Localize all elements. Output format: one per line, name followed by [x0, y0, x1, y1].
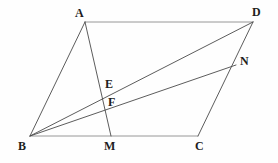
geometry-figure: A D B C M N E F [0, 0, 278, 163]
vertex-label-M: M [104, 140, 116, 152]
vertex-label-C: C [195, 140, 204, 152]
segment-BD [30, 22, 253, 136]
segment-group [30, 22, 253, 136]
geometry-canvas [0, 0, 278, 163]
vertex-label-A: A [75, 7, 84, 19]
vertex-label-D: D [252, 6, 261, 18]
segment-AB [30, 22, 85, 136]
segment-DC [198, 22, 253, 136]
vertex-label-F: F [108, 96, 116, 108]
vertex-label-E: E [105, 78, 113, 90]
vertex-label-B: B [18, 140, 26, 152]
vertex-label-N: N [240, 55, 249, 67]
segment-BN [30, 65, 236, 136]
